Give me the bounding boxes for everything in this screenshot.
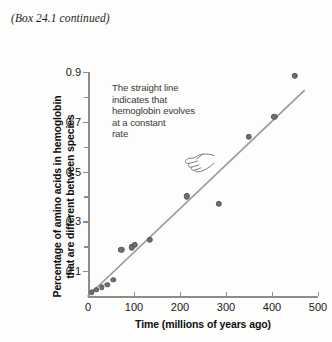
data-point [118,247,124,253]
x-tick-label-200: 200 [171,302,189,313]
y-tick-0-7 [83,122,88,123]
x-tick-label-400: 400 [263,302,281,313]
annotation-line-1: The straight line [112,82,216,94]
y-tick-0-3 [83,221,88,222]
x-tick-label-100: 100 [125,302,143,313]
annotation-line-4: at a constant [112,117,216,129]
y-tick-label-0-1: 0.1 [66,266,81,277]
x-tick-100 [134,292,135,296]
x-tick-label-0: 0 [85,302,91,313]
y-axis-title-line1: Percentage of amino acids in hemoglobin [51,96,63,298]
y-tick-label-0-5: 0.5 [66,166,81,177]
x-axis-line [88,296,318,298]
y-tick-0-4 [84,196,88,197]
data-point [105,282,110,287]
y-axis-line [88,72,90,296]
y-tick-0-9 [83,72,88,73]
y-tick-0-1 [83,271,88,272]
x-tick-200 [180,292,181,296]
annotation-line-2: indicates that [112,94,216,106]
box-caption: (Box 24.1 continued) [11,12,110,24]
data-point [99,285,104,290]
x-tick-label-500: 500 [309,302,327,313]
annotation-line-3: hemoglobin evolves [112,105,216,117]
data-point [111,277,116,282]
x-tick-label-300: 300 [217,302,235,313]
data-point [292,73,298,79]
scatter-figure: Percentage of amino acids in hemoglobin … [0,40,332,342]
data-point [147,237,153,243]
y-tick-label-0-7: 0.7 [66,116,81,127]
y-tick-0-2 [84,246,88,247]
x-tick-500 [318,292,319,296]
x-tick-300 [226,292,227,296]
y-tick-0-6 [84,147,88,148]
y-axis-title-line2: that are different between species [63,114,75,278]
y-tick-0-5 [83,172,88,173]
data-point [246,134,252,140]
figure-root: (Box 24.1 continued) Percentage of amino… [0,0,332,342]
data-point [184,193,190,199]
x-tick-400 [272,292,273,296]
pointing-hand-icon [183,145,217,175]
y-tick-label-0-3: 0.3 [66,216,81,227]
data-point [216,201,222,207]
data-point [271,114,277,120]
annotation-text: The straight line indicates that hemoglo… [112,82,216,140]
x-axis-title: Time (millions of years ago) [88,318,318,330]
y-tick-0-8 [84,97,88,98]
y-tick-label-0-9: 0.9 [66,67,81,78]
annotation-line-5: rate [112,128,216,140]
data-point [132,242,138,248]
data-point [94,287,99,292]
